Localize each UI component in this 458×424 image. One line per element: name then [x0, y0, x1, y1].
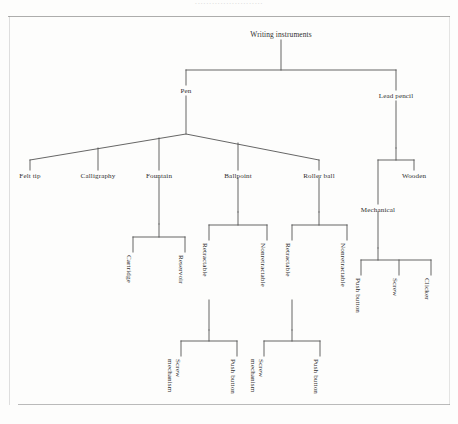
node-rollerball-retractable[interactable]: Retractable	[284, 243, 292, 277]
node-lead-pencil[interactable]: Lead pencil	[379, 92, 414, 100]
node-root[interactable]: Writing instruments	[250, 31, 311, 40]
node-calligraphy[interactable]: Calligraphy	[81, 172, 116, 180]
node-rollerball-nonretractable[interactable]: Nonretractable	[339, 243, 347, 287]
node-roller-ball[interactable]: Roller ball	[303, 172, 334, 180]
node-ballpoint[interactable]: Ballpoint	[224, 172, 251, 180]
node-rollerball-screw-mechanism-line1: Screw	[256, 359, 264, 392]
node-mechanical-push-button[interactable]: Push button	[353, 278, 361, 313]
node-pen[interactable]: Pen	[180, 87, 191, 95]
node-fountain[interactable]: Fountain	[146, 172, 172, 180]
node-mechanical-clicker[interactable]: Clicker	[423, 278, 431, 300]
node-mechanical[interactable]: Mechanical	[361, 206, 395, 214]
node-ballpoint-nonretractable[interactable]: Nonretractable	[259, 243, 267, 287]
node-rollerball-push-button[interactable]: Push button	[312, 359, 320, 394]
node-mechanical-push-button-line1: Push button	[353, 278, 361, 313]
node-rollerball-screw-mechanism-line2: mechanism	[248, 359, 256, 392]
node-felt-tip[interactable]: Felt tip	[19, 172, 40, 180]
node-ballpoint-screw-mechanism[interactable]: Screw mechanism	[165, 359, 181, 392]
node-ballpoint-screw-mechanism-line2: mechanism	[165, 359, 173, 392]
node-reservoir[interactable]: Reservoir	[177, 255, 185, 284]
node-rollerball-screw-mechanism[interactable]: Screw mechanism	[248, 359, 264, 392]
node-wooden[interactable]: Wooden	[402, 172, 426, 180]
node-ballpoint-screw-mechanism-line1: Screw	[173, 359, 181, 392]
node-ballpoint-retractable[interactable]: Retractable	[201, 243, 209, 277]
node-cartridge[interactable]: Cartridge	[125, 255, 133, 283]
node-ballpoint-push-button[interactable]: Push button	[229, 359, 237, 394]
diagram-page: ........................	[0, 0, 458, 424]
node-mechanical-screw[interactable]: Screw	[391, 278, 399, 296]
